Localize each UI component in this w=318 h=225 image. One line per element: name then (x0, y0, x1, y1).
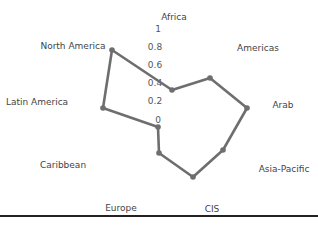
tick-0.6: 0.6 (148, 60, 163, 70)
label-arab: Arab (272, 100, 293, 110)
point-americas (207, 75, 213, 81)
label-cis: CIS (205, 204, 220, 214)
point-latin-america (100, 105, 106, 111)
point-africa (169, 87, 175, 93)
tick-0.2: 0.2 (148, 96, 162, 106)
label-caribbean: Caribbean (40, 160, 86, 170)
tick-1: 1 (155, 24, 161, 34)
label-europe: Europe (105, 203, 137, 213)
tick-0.8: 0.8 (148, 42, 163, 52)
label-north-america: North America (40, 41, 105, 51)
point-europe (156, 150, 162, 156)
point-arab (244, 105, 250, 111)
point-caribbean (155, 124, 161, 130)
tick-0: 0 (155, 115, 161, 125)
label-americas: Americas (237, 43, 279, 53)
bottom-divider (0, 215, 318, 217)
point-north-america (109, 47, 115, 53)
series-polygon (103, 50, 247, 177)
label-latin-america: Latin America (6, 97, 68, 107)
data-series (100, 47, 250, 180)
radar-chart: 1 0.8 0.6 0.4 0.2 0 Africa Americas Arab… (0, 0, 318, 225)
label-africa: Africa (161, 12, 187, 22)
label-asia-pacific: Asia-Pacific (259, 164, 310, 174)
point-asia-pacific (220, 147, 226, 153)
point-cis (190, 174, 196, 180)
